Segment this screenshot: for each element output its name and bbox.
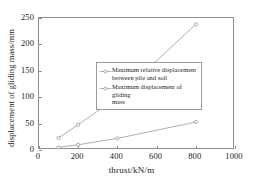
x-tick-mark <box>39 146 40 149</box>
y-axis-title: displacement of gliding mass/mm <box>6 23 16 153</box>
x-tick-label: 600 <box>149 151 162 161</box>
data-point-marker <box>57 146 60 149</box>
x-tick-label: 200 <box>71 151 84 161</box>
x-tick-mark <box>196 146 197 149</box>
y-tick-mark <box>39 97 42 98</box>
legend-symbol-line-marker <box>99 84 112 93</box>
data-point-marker <box>194 120 197 123</box>
legend-label-relative-displacement: Maximum relative displacement between pi… <box>112 66 196 81</box>
x-tick-label: 800 <box>188 151 201 161</box>
legend-label-line-1: Maximum relative displacement <box>112 66 196 74</box>
data-point-marker <box>57 136 60 139</box>
x-tick-label: 1000 <box>225 151 242 161</box>
y-tick-mark <box>39 71 42 72</box>
x-tick-label: 0 <box>36 151 40 161</box>
x-axis-title: thrust/kN/m <box>0 165 263 175</box>
y-tick-mark <box>39 18 42 19</box>
x-tick-label: 400 <box>110 151 123 161</box>
x-tick-mark <box>78 146 79 149</box>
x-tick-mark <box>117 146 118 149</box>
y-tick-mark <box>39 124 42 125</box>
data-point-marker <box>77 123 80 126</box>
y-tick-mark <box>39 44 42 45</box>
legend-symbol-line-marker <box>99 67 112 76</box>
data-point-marker <box>194 23 197 26</box>
legend-label-line-2: between pile and soil <box>112 74 196 82</box>
chart-figure: thrust/kN/m displacement of gliding mass… <box>0 0 263 187</box>
x-tick-mark <box>235 146 236 149</box>
x-tick-mark <box>157 146 158 149</box>
legend: Maximum relative displacement between pi… <box>96 62 202 110</box>
legend-label-line-2: mass <box>112 98 198 106</box>
legend-item-relative-displacement: Maximum relative displacement between pi… <box>99 66 198 81</box>
data-point-marker <box>116 137 119 140</box>
legend-label-gliding-mass-displacement: Maximum displacement of gliding mass <box>112 83 198 106</box>
legend-label-line-1: Maximum displacement of gliding <box>112 83 198 98</box>
legend-item-gliding-mass-displacement: Maximum displacement of gliding mass <box>99 83 198 106</box>
